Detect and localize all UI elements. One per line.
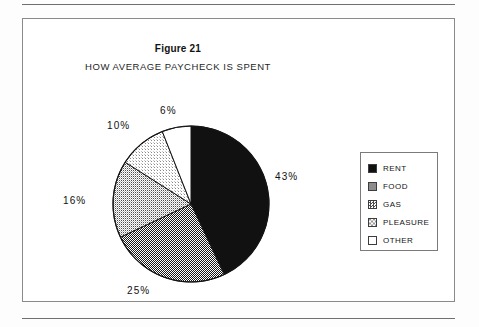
legend-item-food: FOOD bbox=[368, 178, 437, 195]
legend-label-pleasure: PLEASURE bbox=[383, 218, 429, 227]
chart-subtitle: HOW AVERAGE PAYCHECK IS SPENT bbox=[23, 61, 333, 72]
legend-swatch-food bbox=[368, 182, 377, 191]
legend-label-food: FOOD bbox=[383, 182, 408, 191]
legend-swatch-other bbox=[368, 236, 377, 245]
legend-swatch-pleasure bbox=[368, 218, 377, 227]
page-background: Figure 21 HOW AVERAGE PAYCHECK IS SPENT bbox=[0, 0, 479, 327]
chart-legend: RENT FOOD GAS PLEASURE OTHER bbox=[360, 152, 438, 251]
chart-title: Figure 21 bbox=[23, 43, 333, 54]
pie-label-other: 6% bbox=[160, 105, 177, 116]
pie-label-food: 25% bbox=[127, 285, 150, 296]
legend-swatch-rent bbox=[368, 164, 377, 173]
legend-label-gas: GAS bbox=[383, 200, 401, 209]
horizontal-rule-bottom bbox=[22, 318, 455, 319]
legend-item-pleasure: PLEASURE bbox=[368, 214, 437, 231]
pie-label-gas: 16% bbox=[63, 195, 86, 206]
figure-frame: Figure 21 HOW AVERAGE PAYCHECK IS SPENT bbox=[22, 18, 455, 302]
legend-item-rent: RENT bbox=[368, 160, 437, 177]
legend-swatch-gas bbox=[368, 200, 377, 209]
legend-item-gas: GAS bbox=[368, 196, 437, 213]
pie-label-rent: 43% bbox=[275, 171, 298, 182]
legend-label-rent: RENT bbox=[383, 164, 407, 173]
horizontal-rule-top bbox=[22, 4, 455, 5]
pie-chart-svg bbox=[91, 104, 291, 304]
legend-label-other: OTHER bbox=[383, 236, 413, 245]
pie-label-pleasure: 10% bbox=[107, 120, 130, 131]
legend-item-other: OTHER bbox=[368, 232, 437, 249]
pie-chart bbox=[91, 104, 291, 304]
